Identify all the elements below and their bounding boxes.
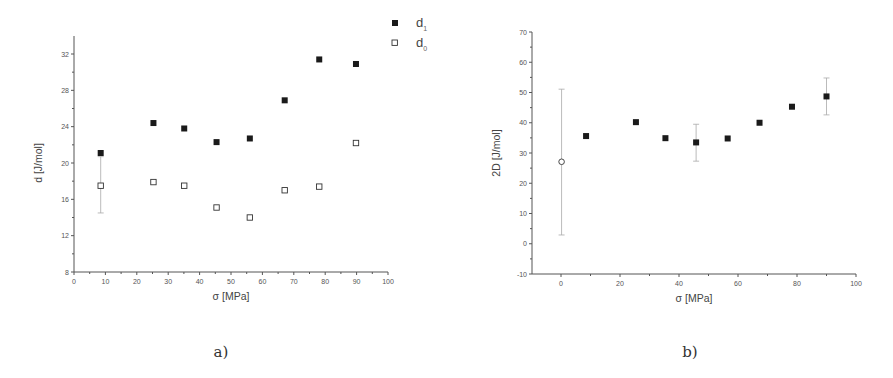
caption-a: a) — [214, 343, 229, 361]
data-point — [725, 135, 731, 141]
x-tick-label: 20 — [133, 278, 141, 285]
data-point — [151, 179, 156, 184]
x-tick-label: 40 — [196, 278, 204, 285]
y-axis-label: d [J/mol] — [32, 143, 44, 183]
x-tick-label: 80 — [321, 278, 329, 285]
y-tick-label: 28 — [61, 87, 69, 94]
data-point — [353, 140, 358, 145]
data-point — [247, 135, 253, 141]
data-point — [583, 133, 589, 139]
legend-marker-open — [392, 40, 397, 45]
caption-b: b) — [682, 343, 697, 361]
data-point — [282, 188, 287, 193]
y-tick-label: 12 — [61, 232, 69, 239]
x-tick-label: 70 — [290, 278, 298, 285]
x-tick-label: 30 — [164, 278, 172, 285]
data-point — [757, 120, 763, 126]
y-tick-label: 16 — [61, 196, 69, 203]
data-point — [662, 135, 668, 141]
y-tick-label: -10 — [517, 271, 527, 278]
x-tick-label: 60 — [259, 278, 267, 285]
chart-a: 01020304050607080901008121620242832σ [MP… — [32, 15, 427, 302]
legend: d1d0 — [392, 15, 427, 52]
data-point — [693, 139, 699, 145]
y-axis-label: 2D [J/mol] — [490, 129, 502, 176]
legend-marker-filled — [392, 20, 398, 26]
data-point — [824, 93, 830, 99]
x-axis-label: σ [MPa] — [676, 292, 713, 304]
y-tick-label: 60 — [519, 59, 527, 66]
data-point — [182, 183, 187, 188]
data-point — [150, 120, 156, 126]
y-tick-label: 32 — [61, 51, 69, 58]
y-tick-label: 0 — [523, 240, 527, 247]
data-point — [789, 104, 795, 110]
data-point — [98, 183, 103, 188]
x-tick-label: 10 — [102, 278, 110, 285]
x-tick-label: 50 — [227, 278, 235, 285]
data-point — [559, 159, 565, 165]
data-point — [214, 139, 220, 145]
x-tick-label: 90 — [353, 278, 361, 285]
data-point — [98, 150, 104, 156]
data-point — [317, 184, 322, 189]
data-point — [247, 215, 252, 220]
x-tick-label: 0 — [559, 280, 563, 287]
x-axis-label: σ [MPa] — [213, 290, 250, 302]
y-tick-label: 10 — [519, 210, 527, 217]
x-tick-label: 100 — [382, 278, 394, 285]
data-point — [316, 56, 322, 62]
x-tick-label: 100 — [850, 280, 862, 287]
data-point — [181, 125, 187, 131]
figure: 01020304050607080901008121620242832σ [MP… — [0, 0, 893, 378]
y-tick-label: 70 — [519, 29, 527, 36]
y-tick-label: 24 — [61, 123, 69, 130]
legend-label: d1 — [416, 15, 427, 32]
x-tick-label: 60 — [734, 280, 742, 287]
x-tick-label: 20 — [616, 280, 624, 287]
x-tick-label: 40 — [675, 280, 683, 287]
y-tick-label: 30 — [519, 150, 527, 157]
legend-label: d0 — [416, 35, 427, 52]
data-point — [353, 61, 359, 67]
x-tick-label: 0 — [72, 278, 76, 285]
y-tick-label: 20 — [519, 180, 527, 187]
y-tick-label: 50 — [519, 89, 527, 96]
x-tick-label: 80 — [793, 280, 801, 287]
chart-b: 020406080100-10010203040506070σ [MPa]2D … — [490, 29, 862, 305]
y-tick-label: 20 — [61, 160, 69, 167]
y-tick-label: 40 — [519, 119, 527, 126]
data-point — [214, 205, 219, 210]
data-point — [633, 119, 639, 125]
y-tick-label: 8 — [65, 269, 69, 276]
data-point — [282, 97, 288, 103]
